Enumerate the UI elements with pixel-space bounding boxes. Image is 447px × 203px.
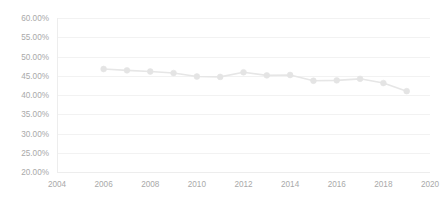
data-point-marker: [404, 88, 410, 94]
x-axis-tick-labels: 200420062008201020122014201620182020: [48, 180, 440, 189]
data-point-marker: [124, 67, 130, 73]
data-point-marker: [287, 72, 293, 78]
data-point-marker: [217, 74, 223, 80]
chart-canvas: 60.00%55.00%50.00%45.00%40.00%35.00%30.0…: [0, 0, 447, 203]
y-tick-label-0: 60.00%: [21, 14, 49, 23]
y-tick-label-1: 55.00%: [21, 33, 49, 42]
data-point-marker: [194, 74, 200, 80]
data-point-marker: [357, 76, 363, 82]
x-tick-label-7: 2018: [374, 180, 393, 189]
data-point-marker: [264, 72, 270, 78]
data-point-marker: [241, 69, 247, 75]
data-point-marker: [101, 66, 107, 72]
y-axis-tick-labels: 60.00%55.00%50.00%45.00%40.00%35.00%30.0…: [21, 14, 49, 177]
x-tick-label-2: 2008: [141, 180, 160, 189]
x-tick-label-3: 2010: [188, 180, 207, 189]
x-tick-label-0: 2004: [48, 180, 67, 189]
data-point-marker: [171, 70, 177, 76]
line-chart: 60.00%55.00%50.00%45.00%40.00%35.00%30.0…: [0, 0, 447, 203]
y-tick-label-4: 40.00%: [21, 91, 49, 100]
x-tick-label-8: 2020: [421, 180, 440, 189]
y-tick-label-2: 50.00%: [21, 53, 49, 62]
data-point-marker: [380, 80, 386, 86]
y-tick-label-6: 30.00%: [21, 130, 49, 139]
data-point-marker: [311, 78, 317, 84]
y-tick-label-8: 20.00%: [21, 168, 49, 177]
y-tick-label-3: 45.00%: [21, 72, 49, 81]
y-tick-label-5: 35.00%: [21, 110, 49, 119]
x-tick-label-6: 2016: [328, 180, 347, 189]
x-tick-label-5: 2014: [281, 180, 300, 189]
y-tick-label-7: 25.00%: [21, 149, 49, 158]
data-point-marker: [147, 69, 153, 75]
x-tick-label-4: 2012: [234, 180, 253, 189]
x-tick-label-1: 2006: [95, 180, 114, 189]
data-point-marker: [334, 77, 340, 83]
